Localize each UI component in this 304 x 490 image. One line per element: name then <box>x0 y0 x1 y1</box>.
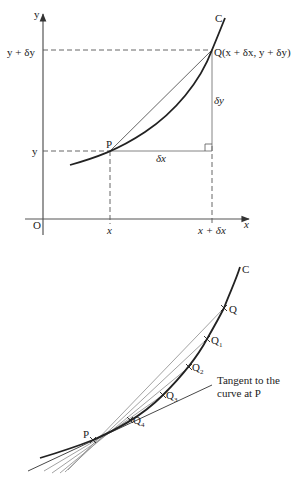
y-tick-upper: y + δy <box>7 46 35 58</box>
x-tick-upper: x + δx <box>197 224 226 236</box>
point-q-label: Q(x + δx, y + δy) <box>214 46 291 59</box>
secant-pq2 <box>60 367 189 473</box>
curve-label-c: C <box>215 12 222 24</box>
point-q1-label: Q1 <box>211 334 223 349</box>
marker-q1 <box>204 336 210 342</box>
y-axis-label: y <box>34 8 40 20</box>
point-q2-label: Q2 <box>192 361 204 376</box>
point-p-label-bottom: P <box>83 428 89 440</box>
point-q4-label: Q4 <box>133 414 145 429</box>
origin-label: O <box>33 219 41 231</box>
diagram-canvas: y x O C P Q(x + δx, y + δy) y + δy y x x… <box>0 0 304 490</box>
curve-c <box>70 18 225 165</box>
dx-label: δx <box>156 152 166 164</box>
tangent-label-line2: curve at P <box>217 387 261 399</box>
curve-c-bottom <box>40 267 240 458</box>
tangent-at-p <box>28 385 212 471</box>
x-tick-lower: x <box>106 224 112 236</box>
point-q-label-bottom: Q <box>229 303 237 315</box>
x-axis-label: x <box>243 218 249 230</box>
dy-label: δy <box>214 94 224 106</box>
y-tick-lower: y <box>32 145 38 157</box>
point-p-label: P <box>106 138 112 150</box>
right-angle-mark <box>205 144 212 151</box>
point-q3-label: Q3 <box>166 389 178 404</box>
top-diagram: y x O C P Q(x + δx, y + δy) y + δy y x x… <box>7 8 291 236</box>
curve-label-c-bottom: C <box>242 263 249 275</box>
tangent-label-line1: Tangent to the <box>217 374 280 386</box>
secant-pq1 <box>65 339 207 472</box>
chord-pq <box>110 50 212 151</box>
bottom-diagram: C P Q Q1 Q2 Q3 Q4 Tangent to the curve a… <box>28 263 280 473</box>
